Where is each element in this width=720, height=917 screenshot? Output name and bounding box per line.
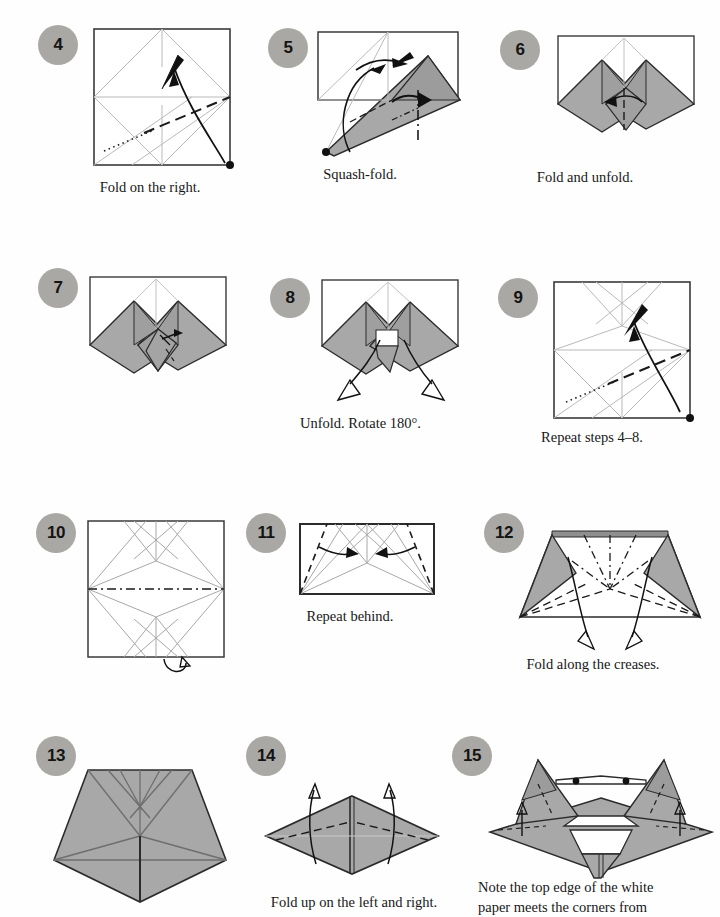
step-number-badge-4: 4	[38, 25, 78, 65]
step-number-label: 11	[258, 523, 275, 543]
step-caption-5: Squash-fold.	[270, 165, 450, 185]
origami-instruction-page: 4	[0, 0, 720, 917]
step-diagram-7	[88, 275, 228, 385]
step-diagram-11	[297, 521, 437, 599]
step-number-label: 4	[54, 35, 63, 55]
step-number-badge-9: 9	[498, 278, 538, 318]
step-number-label: 7	[54, 278, 63, 298]
step-caption-14: Fold up on the left and right.	[244, 893, 464, 913]
step-number-badge-8: 8	[270, 278, 310, 318]
step-number-label: 15	[463, 746, 481, 766]
step-diagram-13	[50, 766, 230, 916]
step-caption-11: Repeat behind.	[255, 607, 445, 627]
step-caption-4: Fold on the right.	[60, 178, 240, 198]
step-diagram-15	[486, 754, 716, 880]
step-number-label: 9	[514, 288, 523, 308]
step-number-badge-10: 10	[36, 513, 76, 553]
step-number-badge-11: 11	[246, 513, 286, 553]
step-diagram-9	[552, 280, 692, 422]
step-number-badge-6: 6	[500, 30, 540, 70]
step-diagram-8	[320, 278, 460, 406]
step-caption-9: Repeat steps 4–8.	[492, 428, 692, 448]
step-number-badge-14: 14	[246, 736, 286, 776]
step-diagram-14	[262, 786, 442, 884]
step-number-label: 8	[286, 288, 295, 308]
step-number-label: 14	[257, 746, 275, 766]
step-caption-6: Fold and unfold.	[490, 168, 680, 188]
step-diagram-10	[86, 519, 230, 679]
step-caption-12: Fold along the creases.	[488, 655, 698, 675]
step-diagram-5	[288, 30, 468, 160]
step-caption-8: Unfold. Rotate 180°.	[258, 414, 463, 434]
step-caption-15: Note the top edge of the white paper mee…	[478, 878, 708, 917]
step-number-label: 6	[516, 40, 525, 60]
step-number-badge-7: 7	[38, 268, 78, 308]
step-number-label: 10	[47, 523, 65, 543]
step-diagram-4	[92, 27, 232, 169]
step-diagram-6	[556, 34, 696, 142]
step-number-label: 13	[47, 746, 65, 766]
step-diagram-12	[510, 521, 710, 649]
